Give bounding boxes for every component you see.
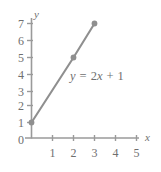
line-chart-svg: 7 6 5 4 3 2 1 0 1 2 3 4 5 y x xyxy=(0,0,161,172)
x-tick-label-5: 5 xyxy=(134,146,140,160)
equation-annotation: y=2x+1 xyxy=(68,69,124,83)
y-tick-label-6: 6 xyxy=(18,34,24,48)
y-tick-label-5: 5 xyxy=(18,51,24,65)
x-tick-label-2: 2 xyxy=(71,146,77,160)
equation-constant: 1 xyxy=(118,69,124,83)
equation-plus: + xyxy=(106,69,113,83)
x-tick-label-1: 1 xyxy=(50,146,56,160)
y-tick-labels: 7 6 5 4 3 2 1 0 xyxy=(18,17,24,147)
y-tick-label-4: 4 xyxy=(18,68,24,82)
y-tick-label-3: 3 xyxy=(18,85,24,99)
origin-label-0: 0 xyxy=(18,133,24,147)
chart-figure: 7 6 5 4 3 2 1 0 1 2 3 4 5 y x xyxy=(0,0,161,172)
x-tick-label-3: 3 xyxy=(92,146,98,160)
equation-equals: = xyxy=(80,69,87,83)
data-point-0-1 xyxy=(29,120,35,126)
x-tick-labels: 1 2 3 4 5 xyxy=(50,146,140,160)
data-point-2-5 xyxy=(71,55,77,61)
data-point-3-7 xyxy=(92,21,98,27)
y-tick-label-2: 2 xyxy=(18,99,24,113)
y-axis-label: y xyxy=(33,8,39,20)
y-tick-label-7: 7 xyxy=(18,17,24,31)
x-axis-label: x xyxy=(144,131,150,143)
y-tick-label-1: 1 xyxy=(18,116,24,130)
equation-var-x: x xyxy=(96,69,103,83)
equation-var-y: y xyxy=(68,69,76,83)
x-tick-label-4: 4 xyxy=(113,146,119,160)
